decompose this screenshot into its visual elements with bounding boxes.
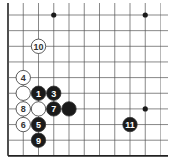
stone-disc xyxy=(16,86,30,100)
move-number-label: 4 xyxy=(21,73,26,83)
white-stone-6: 6 xyxy=(16,117,30,131)
white-stone xyxy=(31,102,45,116)
black-stone-9: 9 xyxy=(31,133,45,147)
white-stone xyxy=(16,86,30,100)
black-stone-3: 3 xyxy=(47,86,61,100)
move-number-label: 1 xyxy=(36,89,41,99)
star-point xyxy=(51,12,56,17)
black-stone-1: 1 xyxy=(31,86,45,100)
stone-disc xyxy=(62,102,76,116)
star-point xyxy=(143,106,148,111)
white-stone-8: 8 xyxy=(16,102,30,116)
star-point xyxy=(143,12,148,17)
stone-disc xyxy=(31,102,45,116)
black-stone-7: 7 xyxy=(47,102,61,116)
black-stone-5: 5 xyxy=(31,117,45,131)
move-number-label: 3 xyxy=(51,89,56,99)
move-number-label: 5 xyxy=(36,120,41,130)
move-number-label: 6 xyxy=(21,120,26,130)
move-number-label: 11 xyxy=(125,120,135,130)
grid-lines xyxy=(8,3,168,156)
black-stone-11: 11 xyxy=(123,117,137,131)
move-number-label: 8 xyxy=(21,104,26,114)
white-stone-4: 4 xyxy=(16,70,30,84)
go-board: 134567891011 xyxy=(0,0,173,165)
black-stone xyxy=(62,102,76,116)
move-number-label: 10 xyxy=(33,42,43,52)
move-number-label: 9 xyxy=(36,136,41,146)
white-stone-10: 10 xyxy=(31,39,45,53)
move-number-label: 7 xyxy=(51,104,56,114)
